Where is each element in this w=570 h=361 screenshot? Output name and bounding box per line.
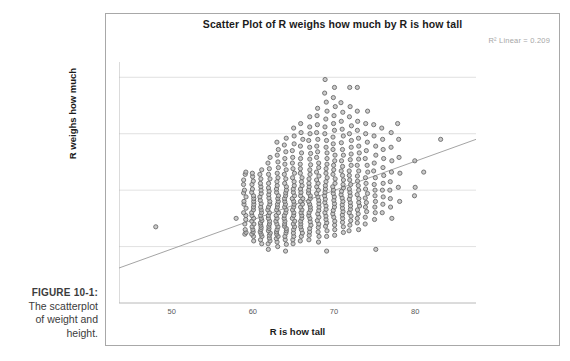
data-point [290,149,294,153]
data-point [300,184,304,188]
data-point [347,229,351,233]
data-point [283,249,287,253]
data-point [381,165,385,169]
data-point [268,155,272,159]
data-point [380,126,384,130]
data-point [373,176,377,180]
data-point [308,145,312,149]
data-point [389,130,393,134]
data-point [260,168,264,172]
data-point [341,230,345,234]
data-point [349,152,353,156]
data-point [242,211,246,215]
data-point [381,147,385,151]
data-point [299,151,303,155]
data-point [348,105,352,109]
data-point [349,219,353,223]
data-point [341,182,345,186]
data-point [309,151,313,155]
data-point [439,137,443,141]
data-point [390,159,394,163]
data-point [348,223,352,227]
data-point [396,185,400,189]
data-point [250,187,254,191]
data-point [364,121,368,125]
data-point [357,169,361,173]
data-point [284,168,288,172]
data-point [363,222,367,226]
data-point [315,123,319,127]
data-point [325,109,329,113]
data-point [389,170,393,174]
data-point [314,170,318,174]
data-point [242,199,246,203]
data-point [299,121,303,125]
data-point [388,205,392,209]
data-point [241,182,245,186]
data-point [413,159,417,163]
y-axis-title: R weighs how much [67,34,78,194]
data-point [357,151,361,155]
data-point [292,126,296,130]
data-point [388,197,392,201]
data-point [340,173,344,177]
data-point [292,171,296,175]
data-point [398,199,402,203]
data-point [258,172,262,176]
data-point [276,147,280,151]
gridlines [119,77,476,246]
data-point [331,142,335,146]
data-point [315,106,319,110]
data-point [308,132,312,136]
data-points [154,77,443,253]
data-point [357,188,361,192]
data-point [299,180,303,184]
data-point [374,247,378,251]
data-point [316,230,320,234]
data-point [284,177,288,181]
data-point [258,181,262,185]
figure-caption-line-2: of weight and [0,313,98,327]
trend-line [119,139,476,268]
data-point [355,221,359,225]
data-point [374,144,378,148]
data-point [325,234,329,238]
data-point [373,199,377,203]
data-point [364,181,368,185]
data-point [266,161,270,165]
data-point [267,167,271,171]
data-point [340,164,344,168]
data-point [372,134,376,138]
data-point [298,167,302,171]
data-point [333,159,337,163]
data-point [315,130,319,134]
data-point [349,182,353,186]
data-point [347,169,351,173]
data-point [388,180,392,184]
data-point [373,211,377,215]
data-point [382,173,386,177]
data-point [355,174,359,178]
data-point [363,215,367,219]
data-point [356,212,360,216]
data-point [242,178,246,182]
data-point [323,77,327,81]
data-point [292,142,296,146]
data-point [234,216,238,220]
x-tick-label-60: 60 [249,307,257,316]
data-point [250,171,254,175]
data-point [373,188,377,192]
data-point [315,114,319,118]
data-point [284,150,288,154]
data-point [364,149,368,153]
data-point [380,188,384,192]
data-point [259,177,263,181]
data-point [356,184,360,188]
data-point [317,161,321,165]
data-point [332,114,336,118]
figure-caption-label: FIGURE 10-1: [0,286,98,300]
data-point [363,196,367,200]
data-point [348,85,352,89]
data-point [331,172,335,176]
data-point [381,181,385,185]
